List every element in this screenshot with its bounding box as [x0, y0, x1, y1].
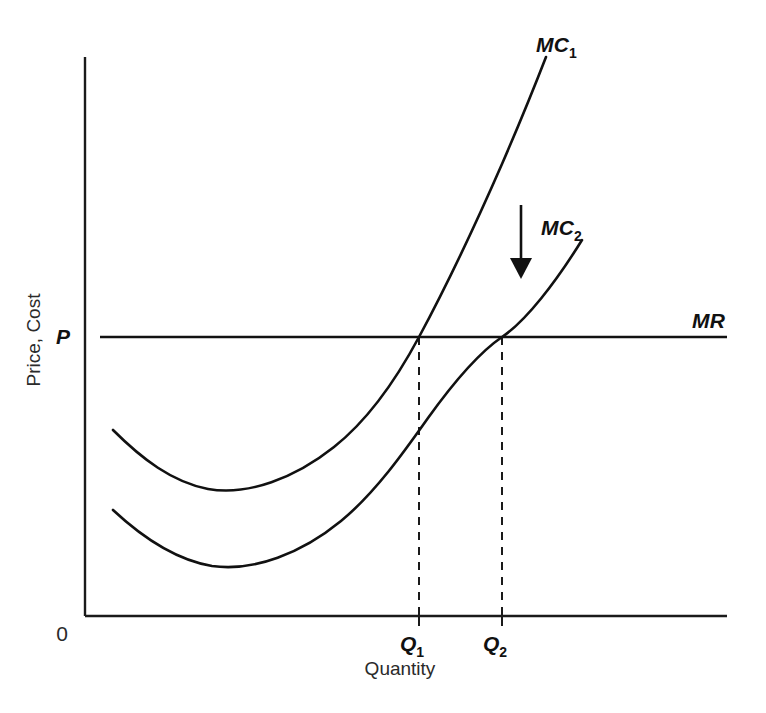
- q2-axis-label: Q2: [483, 632, 507, 660]
- mc1-label-text: MC: [536, 33, 570, 56]
- q1-label-text: Q: [400, 632, 416, 655]
- mc2-curve: [113, 240, 582, 567]
- mc2-label-subscript: 2: [574, 228, 582, 244]
- mc1-curve-label: MC1: [536, 33, 577, 61]
- price-axis-label: P: [56, 325, 71, 348]
- mc1-curve: [113, 57, 546, 491]
- shift-arrow-head: [510, 258, 532, 279]
- x-axis-title: Quantity: [365, 658, 436, 679]
- mc2-label-text: MC: [541, 216, 575, 239]
- mr-curve-label: MR: [692, 309, 726, 332]
- q1-axis-label: Q1: [400, 632, 424, 660]
- mc1-label-subscript: 1: [569, 45, 577, 61]
- mc-shift-diagram: MC1 MC2 MR P Q1 Q2 0 Quantity Price, Cos…: [0, 0, 766, 713]
- origin-label: 0: [56, 622, 68, 645]
- mc2-curve-label: MC2: [541, 216, 582, 244]
- x-axis-ticks: [419, 610, 502, 626]
- q2-label-text: Q: [483, 632, 499, 655]
- q2-label-subscript: 2: [499, 644, 507, 660]
- figure-root: MC1 MC2 MR P Q1 Q2 0 Quantity Price, Cos…: [0, 0, 766, 713]
- shift-arrow: [510, 205, 532, 279]
- y-axis-title: Price, Cost: [23, 293, 44, 387]
